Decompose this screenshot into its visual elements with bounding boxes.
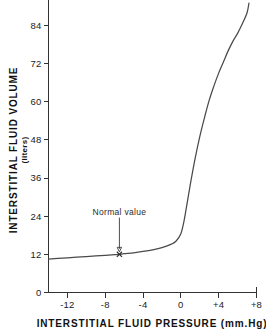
x-tick-label: 0 [178,299,183,310]
x-tick-label: +4 [213,299,224,310]
y-tick-label: 12 [31,249,42,260]
annotation-label: Normal value [93,207,147,217]
x-tick-label: +8 [251,299,262,310]
x-tick-label: -12 [60,299,74,310]
chart-background [0,0,266,334]
y-tick-label: 84 [31,20,42,31]
y-axis-units: (liters) [20,137,29,164]
compliance-curve-chart: 012243648607284 -12-8-40+4+8 Normal valu… [0,0,266,334]
y-tick-label: 0 [36,287,41,298]
x-axis-title: INTERSTITIAL FLUID PRESSURE (mm.Hg) [37,318,266,329]
x-tick-label: -8 [101,299,110,310]
y-tick-label: 36 [31,172,42,183]
chart-figure: 012243648607284 -12-8-40+4+8 Normal valu… [0,0,266,334]
y-tick-label: 24 [31,211,42,222]
y-tick-label: 48 [31,134,42,145]
y-tick-label: 60 [31,96,42,107]
y-tick-label: 72 [31,58,42,69]
x-tick-label: -4 [139,299,148,310]
y-axis-title: INTERSTITIAL FLUID VOLUME [8,67,19,234]
